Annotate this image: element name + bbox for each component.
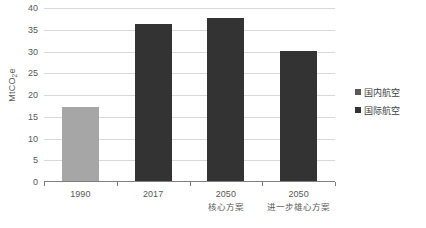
- legend-swatch-icon: [355, 89, 361, 95]
- x-axis-label-year: 1990: [70, 189, 90, 199]
- x-axis-label-scenario: 核心方案: [190, 201, 263, 214]
- x-axis-labels: 199020172050核心方案2050进一步雄心方案: [44, 188, 335, 214]
- bar[interactable]: [207, 18, 244, 182]
- bar-slot: [44, 8, 117, 182]
- y-axis-tick-label: 10: [8, 134, 38, 144]
- legend-item-label: 国内航空: [364, 86, 400, 99]
- chart-legend: 国内航空国际航空: [355, 83, 426, 119]
- x-axis-label: 2050核心方案: [190, 188, 263, 214]
- bar-slot: [262, 8, 335, 182]
- legend-item[interactable]: 国内航空: [355, 83, 426, 101]
- x-axis-ticks: [44, 182, 335, 186]
- bar[interactable]: [135, 24, 172, 182]
- bar-chart: MtCO2e 0510152025303540 199020172050核心方案…: [0, 0, 426, 228]
- bar-slot: [190, 8, 263, 182]
- x-axis-tick: [335, 182, 336, 186]
- plot-area: 0510152025303540: [44, 8, 335, 182]
- x-axis-label-scenario: 进一步雄心方案: [262, 201, 335, 214]
- legend-swatch-icon: [355, 107, 361, 113]
- bar[interactable]: [280, 51, 317, 182]
- y-axis-tick-label: 0: [8, 177, 38, 187]
- x-axis-label: 2017: [117, 188, 190, 214]
- bar[interactable]: [62, 107, 99, 182]
- x-axis-tick: [262, 182, 263, 186]
- x-axis-label-year: 2017: [143, 189, 163, 199]
- y-axis-tick-label: 25: [8, 68, 38, 78]
- bar-series: [44, 8, 335, 182]
- legend-item[interactable]: 国际航空: [355, 101, 426, 119]
- y-axis-title: MtCO2e: [7, 55, 17, 115]
- x-axis-label-year: 2050: [289, 189, 309, 199]
- y-axis-tick-label: 35: [8, 25, 38, 35]
- y-axis-tick-label: 15: [8, 112, 38, 122]
- legend-item-label: 国际航空: [364, 104, 400, 117]
- x-axis-label: 2050进一步雄心方案: [262, 188, 335, 214]
- x-axis-tick: [44, 182, 45, 186]
- x-axis-tick: [117, 182, 118, 186]
- y-axis-tick-label: 30: [8, 47, 38, 57]
- y-axis-tick-label: 40: [8, 3, 38, 13]
- y-axis-tick-label: 20: [8, 90, 38, 100]
- x-axis-tick: [190, 182, 191, 186]
- bar-slot: [117, 8, 190, 182]
- x-axis-label: 1990: [44, 188, 117, 214]
- y-axis-tick-label: 5: [8, 155, 38, 165]
- x-axis-label-year: 2050: [216, 189, 236, 199]
